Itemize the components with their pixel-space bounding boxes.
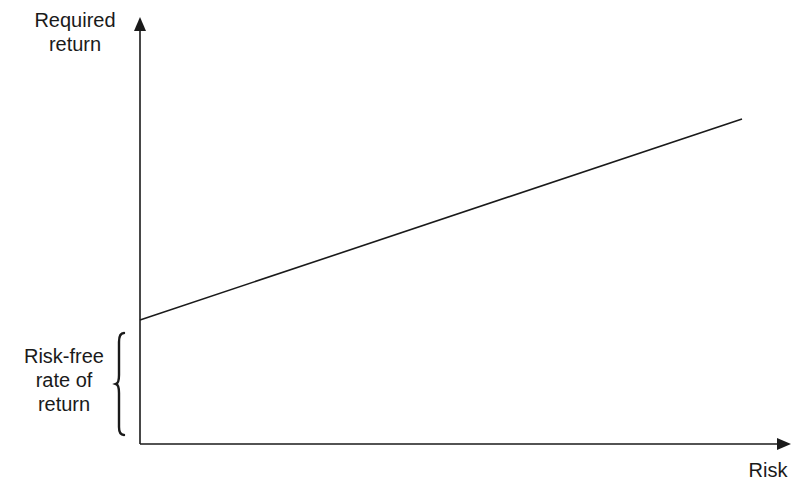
risk-free-label-line1: Risk-free bbox=[8, 344, 120, 368]
risk-free-label-line3: return bbox=[8, 392, 120, 416]
x-axis-label: Risk bbox=[738, 458, 798, 482]
x-axis-arrow-icon bbox=[777, 438, 791, 450]
risk-free-rate-label: Risk-free rate of return bbox=[8, 344, 120, 416]
y-axis-label-line1: Required bbox=[20, 8, 130, 32]
risk-free-label-line2: rate of bbox=[8, 368, 120, 392]
required-return-line bbox=[140, 119, 742, 320]
y-axis-label-line2: return bbox=[20, 32, 130, 56]
y-axis-label: Required return bbox=[20, 8, 130, 56]
y-axis-arrow-icon bbox=[134, 17, 146, 31]
diagram-canvas bbox=[0, 0, 812, 499]
